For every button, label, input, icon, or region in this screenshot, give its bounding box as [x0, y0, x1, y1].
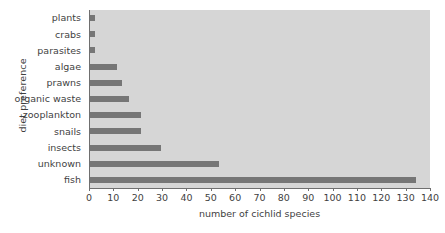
- x-axis-tick-label: 130: [397, 192, 415, 203]
- y-axis-tick-label: algae: [0, 59, 85, 75]
- bar-chart-figure: diet preference plants crabs parasites a…: [0, 0, 445, 233]
- x-axis-tick: [381, 188, 382, 191]
- y-axis-tick-label: fish: [0, 172, 85, 188]
- plot-area: [89, 10, 430, 188]
- x-axis-tick: [113, 188, 114, 191]
- x-axis-ticks: 0102030405060708090100110120130140: [89, 188, 430, 204]
- bar-row: [90, 75, 430, 91]
- x-axis-tick-label: 20: [132, 192, 144, 203]
- bar-insects: [90, 145, 161, 151]
- bar-crabs: [90, 31, 95, 37]
- y-axis-tick-label: parasites: [0, 42, 85, 58]
- bar-row: [90, 42, 430, 58]
- bar-unknown: [90, 161, 219, 167]
- x-axis-tick: [430, 188, 431, 191]
- x-axis-tick-label: 140: [421, 192, 439, 203]
- x-axis-tick: [162, 188, 163, 191]
- bar-row: [90, 59, 430, 75]
- bar-algae: [90, 64, 117, 70]
- bar-row: [90, 107, 430, 123]
- bar-row: [90, 156, 430, 172]
- bar-fish: [90, 177, 416, 183]
- x-axis-tick-label: 30: [156, 192, 168, 203]
- x-axis-tick-label: 40: [180, 192, 192, 203]
- y-axis-tick-label: organic waste: [0, 91, 85, 107]
- x-axis-tick: [333, 188, 334, 191]
- x-axis-tick-label: 80: [278, 192, 290, 203]
- x-axis-tick: [186, 188, 187, 191]
- bar-plants: [90, 15, 95, 21]
- bar-row: [90, 26, 430, 42]
- bars-layer: [90, 10, 430, 188]
- x-axis-tick-label: 90: [302, 192, 314, 203]
- x-axis-tick-label: 60: [229, 192, 241, 203]
- y-axis-tick-label: crabs: [0, 26, 85, 42]
- x-axis-tick-label: 0: [86, 192, 92, 203]
- x-axis-tick: [308, 188, 309, 191]
- x-axis-title: number of cichlid species: [89, 208, 430, 219]
- y-axis-tick-label: zooplankton: [0, 107, 85, 123]
- x-axis-tick: [211, 188, 212, 191]
- y-axis-tick-label: snails: [0, 123, 85, 139]
- bar-row: [90, 172, 430, 188]
- x-axis-tick-label: 100: [323, 192, 341, 203]
- x-axis-tick: [235, 188, 236, 191]
- bar-parasites: [90, 47, 95, 53]
- y-axis-tick-labels: plants crabs parasites algae prawns orga…: [0, 10, 85, 188]
- x-axis-tick-label: 70: [253, 192, 265, 203]
- x-axis-tick: [260, 188, 261, 191]
- x-axis-tick-label: 120: [372, 192, 390, 203]
- x-axis-tick: [138, 188, 139, 191]
- x-axis-tick-label: 110: [348, 192, 366, 203]
- x-axis-tick: [406, 188, 407, 191]
- bar-row: [90, 140, 430, 156]
- x-axis-tick-label: 50: [205, 192, 217, 203]
- y-axis-tick-label: prawns: [0, 75, 85, 91]
- bar-row: [90, 10, 430, 26]
- bar-snails: [90, 128, 141, 134]
- x-axis-tick: [89, 188, 90, 191]
- x-axis-tick-label: 10: [107, 192, 119, 203]
- x-axis-tick: [284, 188, 285, 191]
- bar-row: [90, 91, 430, 107]
- x-axis-tick: [357, 188, 358, 191]
- bar-row: [90, 123, 430, 139]
- bar-organic-waste: [90, 96, 129, 102]
- y-axis-tick-label: unknown: [0, 156, 85, 172]
- y-axis-tick-label: insects: [0, 140, 85, 156]
- bar-prawns: [90, 80, 122, 86]
- bar-zooplankton: [90, 112, 141, 118]
- y-axis-tick-label: plants: [0, 10, 85, 26]
